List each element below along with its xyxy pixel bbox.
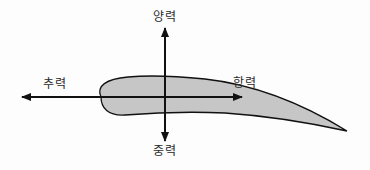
force-diagram: 양력 추력 항력 중력 (0, 0, 370, 170)
drag-label: 항력 (233, 76, 257, 90)
thrust-label: 추력 (43, 77, 67, 91)
airfoil-shape (100, 76, 347, 131)
gravity-label: 중력 (153, 144, 177, 158)
lift-label: 양력 (153, 10, 177, 24)
